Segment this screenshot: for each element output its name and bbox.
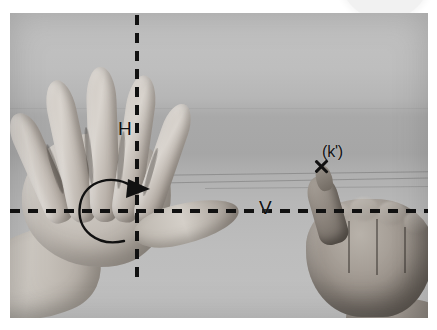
photograph: H V (k') — [10, 13, 428, 318]
page-background: H V (k') — [0, 0, 437, 330]
right-hand-knuckle — [378, 201, 406, 225]
right-hand — [298, 181, 428, 318]
right-hand-knuckle — [404, 211, 428, 233]
right-hand-finger-groove — [404, 227, 406, 273]
right-hand-knuckle — [350, 197, 378, 221]
right-hand-finger-groove — [376, 219, 378, 275]
left-hand — [10, 35, 215, 318]
right-hand-finger-groove — [348, 221, 350, 273]
